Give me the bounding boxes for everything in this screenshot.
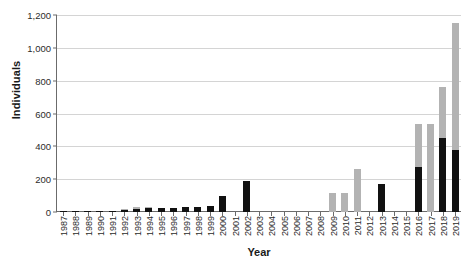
x-tick-label: 2011 <box>353 216 363 235</box>
x-tick-label: 1989 <box>84 216 94 236</box>
bar-slot <box>351 15 363 212</box>
x-tick-label: 1997 <box>182 216 192 236</box>
bar-chart: Individuals 02004006008001,0001,200 1987… <box>0 0 471 265</box>
bar-segment-gray <box>415 124 422 167</box>
bar-slot <box>339 15 351 212</box>
x-tick-label: 2003 <box>255 216 265 236</box>
x-tick-label: 2008 <box>316 216 326 236</box>
bar-slot <box>131 15 143 212</box>
x-tick: 2005 <box>278 216 290 250</box>
x-tick: 2002 <box>241 216 253 250</box>
bar-slot <box>302 15 314 212</box>
y-tick-label: 800 <box>0 75 56 86</box>
x-tick-label: 1993 <box>133 216 143 236</box>
x-tick-label: 2015 <box>402 216 412 236</box>
x-tick-label: 1995 <box>157 216 167 236</box>
x-tick-label: 1987 <box>59 216 69 236</box>
x-tick: 2017 <box>425 216 437 250</box>
x-tick: 2011 <box>351 216 363 250</box>
x-tick: 2014 <box>388 216 400 250</box>
bar-segment-black <box>439 138 446 212</box>
x-tick: 1990 <box>94 216 106 250</box>
bar-slot <box>216 15 228 212</box>
x-tick: 2010 <box>339 216 351 250</box>
bar-stack <box>243 181 250 212</box>
x-tick-label: 2006 <box>292 216 302 236</box>
bar-segment-black <box>378 184 385 212</box>
plot-area: 02004006008001,0001,200 <box>57 15 461 212</box>
x-tick-label: 1999 <box>206 216 216 236</box>
x-tick: 1988 <box>69 216 81 250</box>
x-tick-label: 1992 <box>120 216 130 236</box>
x-tick: 1994 <box>143 216 155 250</box>
x-tick: 1996 <box>167 216 179 250</box>
bar-slot <box>278 15 290 212</box>
x-tick: 1989 <box>82 216 94 250</box>
x-tick-label: 1996 <box>169 216 179 236</box>
bar-stack <box>439 87 446 212</box>
y-tick-label: 400 <box>0 141 56 152</box>
x-tick: 1992 <box>118 216 130 250</box>
x-tick-label: 1994 <box>145 216 155 236</box>
x-tick-label: 1991 <box>108 216 118 236</box>
y-tick-label: 1,000 <box>0 42 56 53</box>
bar-series <box>57 15 461 212</box>
bar-slot <box>363 15 375 212</box>
x-tick-label: 2014 <box>390 216 400 236</box>
x-tick: 1995 <box>155 216 167 250</box>
x-tick: 2003 <box>253 216 265 250</box>
bar-slot <box>265 15 277 212</box>
bar-slot <box>314 15 326 212</box>
x-tick: 1991 <box>106 216 118 250</box>
bar-slot <box>327 15 339 212</box>
bar-stack <box>415 124 422 212</box>
bar-slot <box>155 15 167 212</box>
x-tick-label: 2007 <box>304 216 314 236</box>
bar-stack <box>452 23 459 212</box>
bar-stack <box>341 193 348 212</box>
bar-slot <box>69 15 81 212</box>
bar-slot <box>290 15 302 212</box>
x-tick-label: 2010 <box>341 216 351 236</box>
bar-segment-gray <box>427 124 434 212</box>
bar-stack <box>354 169 361 213</box>
x-tick-label: 2000 <box>218 216 228 236</box>
bar-segment-gray <box>341 193 348 212</box>
x-tick-label: 2004 <box>267 216 277 236</box>
x-tick-label: 2002 <box>243 216 253 236</box>
bar-stack <box>427 124 434 212</box>
bar-slot <box>167 15 179 212</box>
bar-slot <box>412 15 424 212</box>
x-tick: 1999 <box>204 216 216 250</box>
x-tick-label: 1990 <box>96 216 106 236</box>
x-tick: 2006 <box>290 216 302 250</box>
bar-segment-black <box>219 196 226 212</box>
x-tick-label: 2009 <box>329 216 339 236</box>
bar-slot <box>425 15 437 212</box>
y-tick-label: 200 <box>0 174 56 185</box>
x-tick-label: 2005 <box>280 216 290 236</box>
x-tick: 2018 <box>437 216 449 250</box>
y-tick-label: 1,200 <box>0 10 56 21</box>
bar-segment-black <box>243 181 250 212</box>
bar-slot <box>106 15 118 212</box>
bar-slot <box>180 15 192 212</box>
bar-slot <box>204 15 216 212</box>
bar-segment-gray <box>329 193 336 212</box>
x-tick-label: 1988 <box>71 216 81 236</box>
bar-slot <box>449 15 461 212</box>
bar-slot <box>229 15 241 212</box>
x-tick-label: 2018 <box>439 216 449 236</box>
bar-slot <box>400 15 412 212</box>
x-tick: 2008 <box>314 216 326 250</box>
x-tick: 2004 <box>265 216 277 250</box>
y-tick-label: 0 <box>0 207 56 218</box>
x-tick: 1997 <box>180 216 192 250</box>
bar-segment-gray <box>452 23 459 150</box>
x-tick: 2007 <box>302 216 314 250</box>
x-tick-label: 1998 <box>194 216 204 236</box>
x-tick-label: 2019 <box>451 216 461 236</box>
x-axis-title: Year <box>57 246 461 258</box>
bar-stack <box>219 196 226 212</box>
bar-slot <box>253 15 265 212</box>
